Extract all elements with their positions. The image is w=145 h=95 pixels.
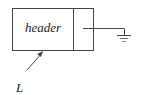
header-label: header xyxy=(25,20,62,35)
list-node: header xyxy=(13,9,94,51)
pointer-label: L xyxy=(15,80,23,95)
linked-list-diagram: header L xyxy=(0,0,145,95)
null-pointer xyxy=(83,29,131,42)
arrowhead-icon xyxy=(37,51,43,57)
head-pointer: L xyxy=(15,51,43,95)
